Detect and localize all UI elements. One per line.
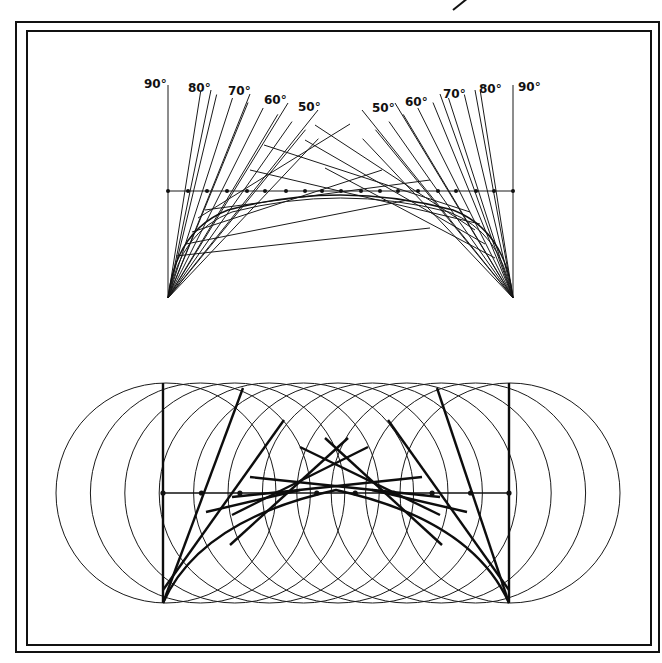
- baseline-dot: [320, 189, 324, 193]
- construction-line: [232, 447, 368, 515]
- right-label-90: 90°: [518, 80, 541, 94]
- bottom-diagram-circles: [56, 383, 620, 603]
- right-ray: [363, 139, 513, 298]
- baseline-dot: [436, 189, 440, 193]
- lattice-line: [315, 125, 475, 230]
- top-diagram-envelope: [166, 85, 515, 298]
- diagram-canvas: 90° 80° 70° 60° 50° 50° 60° 70° 80° 90°: [0, 0, 662, 663]
- baseline-dot: [263, 189, 267, 193]
- arch-curve: [163, 490, 509, 603]
- baseline-dot: [378, 189, 382, 193]
- right-ray: [480, 92, 513, 298]
- construction-line: [300, 447, 440, 515]
- baseline-dot: [225, 189, 229, 193]
- left-label-90: 90°: [144, 77, 167, 91]
- baseline-dot: [359, 189, 363, 193]
- left-label-60: 60°: [264, 93, 287, 107]
- right-ray: [449, 98, 513, 298]
- inner-frame: [27, 31, 651, 645]
- right-ray: [418, 108, 513, 298]
- left-ray: [168, 92, 201, 298]
- frame: [16, 0, 659, 652]
- baseline-dot: [186, 189, 190, 193]
- axis-dot: [506, 490, 511, 495]
- left-label-80: 80°: [188, 81, 211, 95]
- lattice-line: [198, 124, 350, 218]
- right-angle-labels: 50° 60° 70° 80° 90°: [372, 80, 541, 115]
- left-label-70: 70°: [228, 84, 251, 98]
- baseline-dot: [416, 189, 420, 193]
- envelope-curve: [168, 195, 513, 298]
- left-ray: [168, 139, 318, 298]
- lattice-line: [305, 140, 485, 244]
- baseline-dot: [339, 189, 343, 193]
- outer-frame: [16, 22, 659, 652]
- right-label-60: 60°: [405, 95, 428, 109]
- baseline-dot: [492, 189, 496, 193]
- lattice-line: [186, 200, 408, 244]
- baseline-dot: [303, 189, 307, 193]
- left-angle-labels: 90° 80° 70° 60° 50°: [144, 77, 321, 114]
- baseline-dot: [511, 189, 515, 193]
- corner-mark: [453, 0, 468, 10]
- baseline-dot: [396, 189, 400, 193]
- baseline-dot: [245, 189, 249, 193]
- axis-dot: [160, 490, 165, 495]
- construction-line: [388, 420, 509, 590]
- baseline-dot: [205, 189, 209, 193]
- left-label-50: 50°: [298, 100, 321, 114]
- left-ray: [168, 108, 263, 298]
- baseline-dot: [474, 189, 478, 193]
- right-label-50: 50°: [372, 101, 395, 115]
- lattice-line: [264, 145, 470, 212]
- left-ray: [168, 114, 278, 298]
- baseline-dot: [454, 189, 458, 193]
- right-label-70: 70°: [443, 87, 466, 101]
- right-label-80: 80°: [479, 82, 502, 96]
- left-ray: [168, 98, 232, 298]
- baseline-dot: [166, 189, 170, 193]
- construction-line: [163, 420, 284, 590]
- baseline-dot: [284, 189, 288, 193]
